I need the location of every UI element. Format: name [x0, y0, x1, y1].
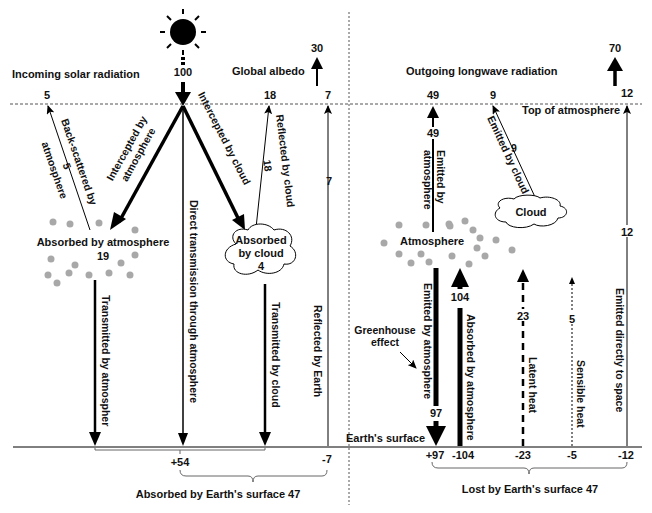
greenhouse-label-2: effect [371, 336, 400, 348]
top-backscatter-value: 5 [44, 89, 50, 101]
back-emitted-label: Emitted by atmosphere [422, 283, 434, 399]
absorbed-surface-bracket [180, 470, 327, 482]
absorbed-by-atm-value: 104 [451, 291, 470, 303]
surface-value-back-radiation: +97 [426, 449, 445, 461]
absorbed-atmosphere-label: Absorbed by atmosphere [37, 236, 170, 248]
top-direct-value: 12 [621, 87, 633, 99]
sun-icon [160, 9, 206, 67]
surface-value-sensible: -5 [567, 449, 577, 461]
outgoing-total-value: 70 [609, 42, 621, 54]
top-atm-value: 49 [427, 89, 439, 101]
absorbed-cloud-value: 4 [258, 260, 265, 272]
global-albedo-label: Global albedo [232, 65, 305, 77]
surface-minus-value: -7 [322, 453, 332, 465]
reflected-earth-value: 7 [326, 175, 332, 187]
cloud-label: Cloud [515, 206, 546, 218]
back-emitted-value: 97 [430, 407, 442, 419]
latent-label: Latent heat [527, 357, 539, 414]
direct-transmission-label: Direct transmission through atmosphere [188, 200, 200, 403]
absorbed-cloud-label-2: by cloud [238, 247, 283, 259]
global-albedo-arrow [311, 57, 323, 69]
global-albedo-value: 30 [311, 42, 323, 54]
absorbed-atmosphere-value: 19 [97, 250, 109, 262]
reflected-cloud-value: 18 [261, 159, 274, 172]
surface-value-emission: -104 [452, 449, 475, 461]
latent-value: 23 [517, 310, 529, 322]
greenhouse-label-1: Greenhouse [354, 324, 415, 336]
intercepted-cloud-label: Intercepted by cloud [196, 90, 253, 187]
lost-surface-label: Lost by Earth's surface 47 [462, 483, 599, 495]
absorbed-surface-label: Absorbed by Earth's surface 47 [136, 488, 301, 500]
top-of-atmosphere-label: Top of atmosphere [522, 104, 620, 116]
direct-space-value: 12 [621, 226, 633, 238]
emitted-cloud-value: 9 [511, 142, 517, 154]
top-cloud-value: 9 [490, 89, 496, 101]
sensible-value: 5 [569, 313, 575, 325]
surface-value-latent: -23 [515, 449, 531, 461]
transmitted-cloud-label: Transmitted by cloud [270, 302, 282, 408]
emitted-atm-label-1: Emitted by [435, 150, 447, 204]
absorbed-by-atm-label: Absorbed by atmosphere [465, 314, 477, 441]
top-reflected-cloud-value: 18 [264, 89, 276, 101]
reflected-cloud-label: Reflected by cloud [274, 114, 297, 208]
absorbed-cloud-label-1: Absorbed [235, 234, 286, 246]
sensible-label: Sensible heat [575, 360, 587, 428]
surface-value-direct: -12 [618, 449, 634, 461]
direct-space-label: Emitted directly to space [614, 288, 626, 412]
top-reflected-earth-value: 7 [325, 89, 331, 101]
backscatter-label-2: atmosphere [40, 140, 71, 200]
backscatter-value: 5 [61, 161, 74, 171]
surface-plus-value: +54 [171, 456, 191, 468]
atmosphere-label: Atmosphere [400, 235, 464, 247]
lost-surface-bracket [432, 462, 627, 474]
outgoing-heading: Outgoing longwave radiation [406, 65, 558, 77]
transmitted-atmosphere-label: Transmitted by atmospher [100, 295, 112, 426]
emitted-cloud-label: Emitted by cloud [485, 114, 532, 196]
greenhouse-pointer-arrow [400, 352, 416, 368]
emitted-atm-label-2: atmosphere [422, 150, 434, 210]
atmosphere-particles-left [45, 219, 139, 287]
outgoing-total-arrow [607, 57, 623, 71]
solar-input-value: 100 [174, 66, 192, 78]
earth-surface-label: Earth's surface [346, 432, 425, 444]
emitted-atm-value: 49 [427, 127, 439, 139]
transmission-bracket [95, 448, 265, 454]
energy-budget-diagram: Incoming solar radiation 100 Global albe… [0, 0, 652, 513]
reflected-earth-label: Reflected by Earth [312, 305, 324, 397]
incoming-heading: Incoming solar radiation [12, 68, 140, 80]
